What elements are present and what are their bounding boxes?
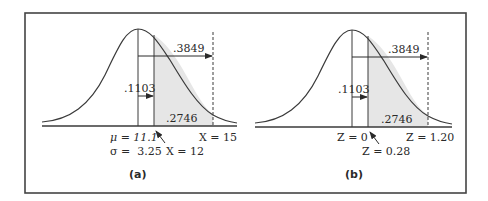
- x15-label: X = 15: [199, 131, 237, 144]
- caption-a: (a): [129, 168, 146, 181]
- bell-curve-b: [255, 30, 452, 124]
- x12-label: X = 12: [166, 145, 204, 158]
- area-label-2746-a: .2746: [166, 112, 198, 125]
- sigma-label: σ = 3.25: [110, 145, 162, 158]
- area-label-1103-b: .1103: [338, 83, 370, 96]
- panel-a: .3849 .1103 .2746 μ = 11.1 σ = 3.25 X = …: [42, 29, 237, 181]
- z0-label: Z = 0: [337, 131, 368, 144]
- mu-label: μ = 11.1: [110, 131, 158, 144]
- area-label-2746-b: .2746: [381, 113, 413, 126]
- area-label-3849-a: .3849: [173, 42, 205, 55]
- z028-label: Z = 0.28: [362, 145, 410, 158]
- pointer-z028: [370, 132, 379, 144]
- bell-curve-a: [42, 29, 237, 123]
- panel-b: .3849 .1103 .2746 Z = 0 Z = 0.28 Z = 1.2…: [255, 30, 454, 181]
- z120-label: Z = 1.20: [406, 131, 454, 144]
- area-label-1103-a: .1103: [124, 82, 156, 95]
- caption-b: (b): [345, 168, 363, 181]
- area-label-3849-b: .3849: [388, 43, 420, 56]
- normal-distribution-figure: .3849 .1103 .2746 μ = 11.1 σ = 3.25 X = …: [0, 0, 488, 201]
